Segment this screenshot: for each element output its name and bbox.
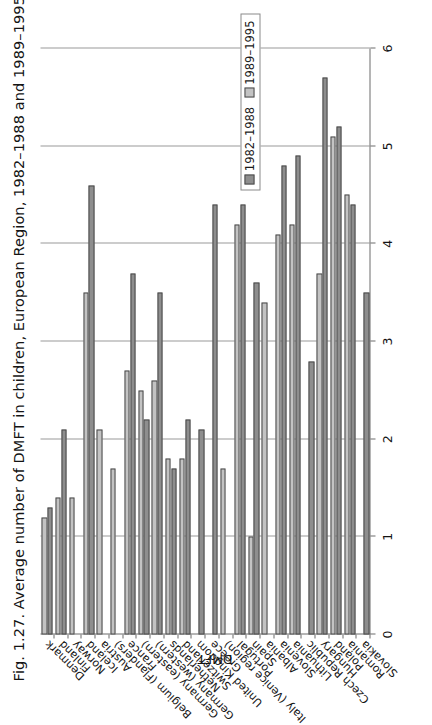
bar xyxy=(165,458,170,634)
bar xyxy=(185,419,190,634)
bar xyxy=(157,292,162,634)
bar xyxy=(143,419,148,634)
legend-swatch xyxy=(244,87,254,97)
value-tick-label: 6 xyxy=(379,33,394,63)
category-tick xyxy=(204,634,205,638)
bar xyxy=(261,302,266,634)
category-tick xyxy=(67,634,68,638)
bar xyxy=(234,224,239,634)
bar xyxy=(110,468,115,634)
category-tick xyxy=(259,634,260,638)
bar xyxy=(69,497,74,634)
value-tick xyxy=(370,242,375,243)
legend: 1982–19881989–1995 xyxy=(240,13,261,190)
bar xyxy=(212,204,217,634)
bar xyxy=(344,195,349,635)
bar xyxy=(281,165,286,634)
category-tick xyxy=(149,634,150,638)
category-tick xyxy=(177,634,178,638)
bar xyxy=(248,536,253,634)
legend-swatch xyxy=(244,174,254,184)
category-tick xyxy=(94,634,95,638)
category-tick xyxy=(163,634,164,638)
bar xyxy=(198,429,203,634)
category-tick xyxy=(108,634,109,638)
bar xyxy=(41,517,46,634)
category-tick xyxy=(218,634,219,638)
bar xyxy=(83,292,88,634)
bar xyxy=(179,458,184,634)
bar xyxy=(336,126,341,634)
bar xyxy=(275,234,280,634)
gridline xyxy=(40,47,370,48)
category-tick xyxy=(355,634,356,638)
category-tick xyxy=(328,634,329,638)
gridline xyxy=(40,145,370,146)
value-tick-label: 5 xyxy=(379,131,394,161)
bar xyxy=(363,292,368,634)
category-tick xyxy=(342,634,343,638)
bar xyxy=(96,429,101,634)
value-tick xyxy=(370,633,375,634)
legend-entry: 1982–1988 xyxy=(244,106,256,183)
bar xyxy=(130,273,135,634)
bar xyxy=(240,204,245,634)
bar xyxy=(138,390,143,634)
category-tick xyxy=(135,634,136,638)
bar xyxy=(151,380,156,634)
value-tick-label: 4 xyxy=(379,228,394,258)
value-tick xyxy=(370,535,375,536)
category-tick xyxy=(53,634,54,638)
category-tick xyxy=(232,634,233,638)
bar xyxy=(55,497,60,634)
chart-title: Fig. 1.27. Average number of DMFT in chi… xyxy=(10,0,26,681)
bar xyxy=(308,361,313,634)
bar xyxy=(316,273,321,634)
plot-area: 0123456 DenmarkFinlandNorwayIcelandAustr… xyxy=(40,48,370,634)
bar xyxy=(171,468,176,634)
bar xyxy=(253,282,258,634)
bar xyxy=(47,507,52,634)
category-tick xyxy=(300,634,301,638)
category-tick xyxy=(287,634,288,638)
value-tick xyxy=(370,438,375,439)
category-tick xyxy=(80,634,81,638)
bar xyxy=(322,77,327,634)
bar xyxy=(61,429,66,634)
category-tick xyxy=(314,634,315,638)
value-tick-label: 0 xyxy=(379,619,394,649)
category-tick xyxy=(122,634,123,638)
bar xyxy=(289,224,294,634)
value-tick xyxy=(370,145,375,146)
legend-label: 1982–1988 xyxy=(244,106,256,170)
value-tick xyxy=(370,340,375,341)
category-tick xyxy=(273,634,274,638)
bar xyxy=(220,468,225,634)
bar xyxy=(124,370,129,634)
value-tick xyxy=(370,47,375,48)
legend-entry: 1989–1995 xyxy=(244,20,256,97)
value-tick-label: 3 xyxy=(379,326,394,356)
value-tick-label: 2 xyxy=(379,424,394,454)
value-tick-label: 1 xyxy=(379,521,394,551)
category-tick xyxy=(369,634,370,638)
legend-label: 1989–1995 xyxy=(244,20,256,84)
category-tick xyxy=(245,634,246,638)
bar xyxy=(350,204,355,634)
bar xyxy=(295,155,300,634)
category-tick xyxy=(190,634,191,638)
bar xyxy=(88,185,93,634)
bar xyxy=(330,136,335,634)
